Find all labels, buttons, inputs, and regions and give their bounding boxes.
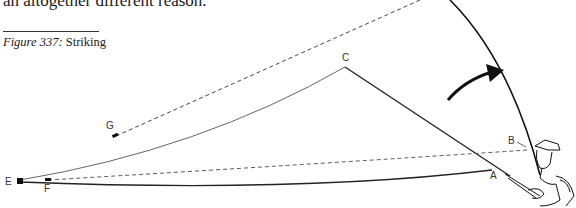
label-c: C (342, 52, 349, 63)
label-b: B (508, 135, 515, 146)
line-f-to-b (48, 150, 528, 180)
fly-g (112, 133, 119, 138)
strike-arrow-shaft (448, 72, 492, 100)
label-g: G (106, 120, 114, 131)
fly-f (45, 178, 51, 181)
label-f: F (44, 183, 50, 194)
rod-c-to-a (345, 67, 510, 176)
fly-e (17, 178, 23, 184)
striking-diagram: C G E F A B (0, 0, 576, 208)
line-e-to-c (20, 67, 345, 180)
pointer-b (517, 142, 526, 147)
label-e: E (5, 176, 12, 187)
label-a: A (490, 170, 497, 181)
line-g-dashed (116, 0, 420, 136)
